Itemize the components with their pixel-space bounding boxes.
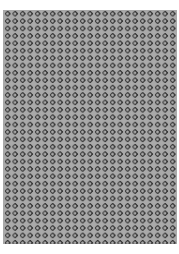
top-margin [0,0,179,10]
canvas [0,0,179,254]
ring-pattern [3,10,177,244]
bottom-margin [0,244,179,254]
